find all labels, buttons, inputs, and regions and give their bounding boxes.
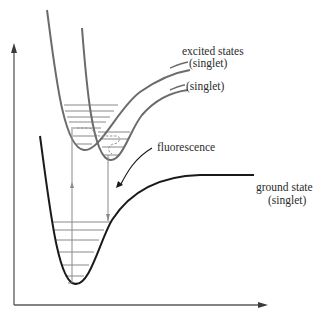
x-axis-arrow-icon: [258, 302, 268, 308]
fluorescence-arrowhead-icon: [106, 214, 110, 221]
jablonski-diagram: excited states (singlet) (singlet) fluor…: [0, 0, 326, 314]
excited-label-leader: [170, 62, 188, 68]
absorption-arrowhead-icon: [70, 182, 74, 188]
ground-state-singlet-label: (singlet): [268, 194, 306, 207]
fluorescence-leader: [120, 148, 152, 186]
singlet-label-leader: [170, 85, 185, 90]
excited-states-label: excited states: [182, 45, 244, 57]
excited-states-singlet-label: (singlet): [189, 57, 227, 70]
ground-vibrational-levels: [53, 222, 110, 283]
y-axis-arrow-icon: [11, 43, 17, 53]
ground-state-label: ground state: [256, 181, 313, 194]
second-singlet-label: (singlet): [186, 80, 224, 93]
excited-state-1-curve: [47, 10, 190, 150]
fluorescence-label: fluorescence: [157, 141, 215, 153]
